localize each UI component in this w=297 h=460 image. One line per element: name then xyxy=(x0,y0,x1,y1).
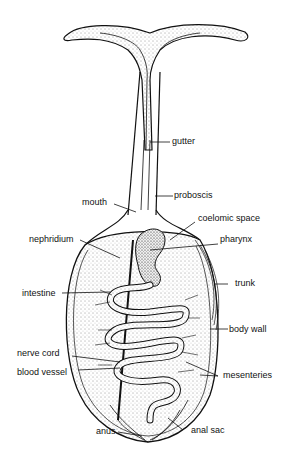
label-nephridium: nephridium xyxy=(29,235,74,244)
label-mesenteries: mesenteries xyxy=(223,371,272,380)
label-nerve-cord: nerve cord xyxy=(17,349,60,358)
label-proboscis: proboscis xyxy=(174,191,213,200)
label-anal-sac: anal sac xyxy=(191,426,225,435)
label-coelomic-space: coelomic space xyxy=(198,214,260,223)
label-intestine: intestine xyxy=(22,289,56,298)
anatomy-illustration xyxy=(0,0,297,460)
label-anus: anus xyxy=(96,427,116,436)
label-gutter: gutter xyxy=(172,137,195,146)
label-pharynx: pharynx xyxy=(220,235,252,244)
label-blood-vessel: blood vessel xyxy=(17,368,67,377)
proboscis-head xyxy=(64,25,248,150)
label-mouth: mouth xyxy=(82,198,107,207)
label-trunk: trunk xyxy=(235,279,255,288)
label-body-wall: body wall xyxy=(229,325,267,334)
